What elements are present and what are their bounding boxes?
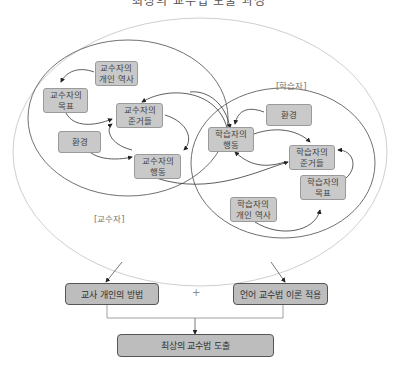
teacher-personal-history-node: 교수자의 개인 역사 (95, 61, 138, 86)
learner-behavior-node: 학습자의 행동 (208, 127, 254, 152)
learner-personal-history-node: 학습자의 개인 역사 (230, 197, 277, 222)
learner-norms-node: 학습자의 준거들 (289, 145, 335, 170)
teacher-norms-node: 교수자의 준거들 (116, 103, 163, 128)
plus-sign: + (192, 287, 200, 298)
learner-circle-label: [학습자] (276, 79, 307, 91)
best-method-result-box: 최상의 교수법 도출 (117, 334, 274, 357)
teacher-circle-label: [교수자] (94, 212, 125, 224)
learner-goal-node: 학습자의 목표 (300, 175, 346, 200)
teacher-method-box: 교사 개인의 방법 (65, 283, 159, 305)
teacher-goal-node: 교수자의 목표 (43, 88, 88, 113)
teacher-environment-node: 환경 (58, 131, 101, 153)
language-theory-box: 언어 교수법 이론 적용 (233, 283, 328, 305)
teacher-behavior-node: 교수자의 행동 (134, 154, 181, 179)
learner-environment-node: 환경 (266, 104, 312, 126)
